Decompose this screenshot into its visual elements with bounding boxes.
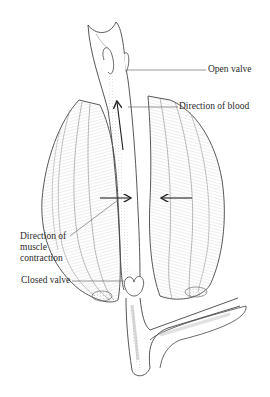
open-valve-right-leaflet bbox=[124, 53, 129, 72]
vein-muscle-illustration bbox=[0, 0, 270, 397]
muscle-contraction-label-line2: muscle bbox=[20, 242, 47, 253]
left-muscle bbox=[42, 100, 120, 302]
diagram-canvas: Open valve Direction of blood Direction … bbox=[0, 0, 270, 397]
open-valve-label: Open valve bbox=[208, 64, 252, 75]
open-valve-left-leaflet bbox=[103, 48, 114, 74]
left-tendon-end bbox=[92, 291, 112, 301]
muscle-contraction-label-line1: Direction of bbox=[20, 231, 66, 242]
direction-of-blood-label: Direction of blood bbox=[179, 101, 249, 112]
muscle-contraction-label-line3: contraction bbox=[20, 253, 63, 264]
closed-valve-label: Closed valve bbox=[21, 275, 70, 286]
closed-valve bbox=[124, 276, 143, 296]
right-tendon-end bbox=[185, 287, 207, 297]
